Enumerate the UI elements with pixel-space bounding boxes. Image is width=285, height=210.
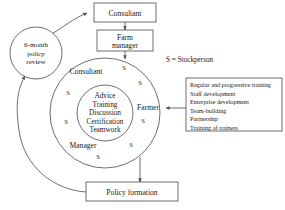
stockperson-marker: S [138,79,142,86]
consultant-box-label: Consultant [109,9,143,18]
review-circle-line-2: policy [27,50,45,58]
feedback-loop-connector [17,76,86,192]
ring-role-manager: Manager [70,141,97,150]
core-item-teamwork: Teamwork [89,125,120,134]
farm-manager-box-line-2: manager [112,41,139,50]
training-item: Training of trainers [190,124,238,131]
review-circle-line-3: review [26,58,46,66]
diagram-root: 6-month policy review Consultant Farm ma… [0,0,285,210]
stockperson-marker: S [141,117,145,124]
policy-formation-box-label: Policy formation [106,188,157,197]
farm-advisory-diagram: 6-month policy review Consultant Farm ma… [0,0,285,210]
training-item: Regular and progressive training [190,81,271,88]
ring-role-consultant: Consultant [70,67,104,76]
training-item: Enterprise development [190,98,249,105]
training-item: Team-building [190,107,226,114]
training-item: Partnership [190,115,218,122]
stockperson-marker: S [64,118,68,125]
training-item: Staff development [190,90,236,97]
review-circle-line-1: 6-month [24,41,48,49]
stockperson-marker: S [66,89,70,96]
stockperson-marker: S [129,141,133,148]
ring-role-farmer: Farmer [137,103,159,112]
stockperson-marker: S [122,64,126,71]
legend-stockperson: S = Stockperson [166,56,214,64]
stockperson-marker: S [96,153,100,160]
